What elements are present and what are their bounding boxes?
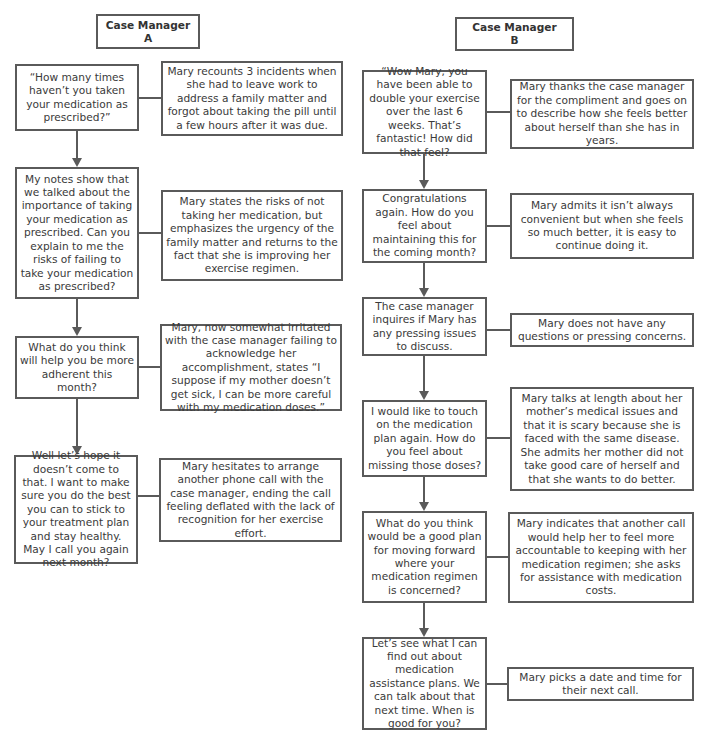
manager-a-step-4: Well let’s hope it doesn’t come to that.… xyxy=(14,455,138,564)
mary-response: Mary thanks the case manager for the com… xyxy=(515,80,689,147)
mary-response: Mary admits it isn’t always convenient b… xyxy=(515,199,689,253)
connector-line xyxy=(423,263,425,289)
mary-response: Mary does not have any questions or pres… xyxy=(515,317,689,344)
connector-line xyxy=(423,477,425,503)
header-label: B xyxy=(510,34,518,47)
mary-a-response-3: Mary, now somewhat irritated with the ca… xyxy=(160,324,342,411)
mary-b-response-3: Mary does not have any questions or pres… xyxy=(510,313,694,347)
header-title: Case Manager xyxy=(106,19,190,32)
mary-response: Mary hesitates to arrange another phone … xyxy=(164,460,337,540)
manager-b-step-4: I would like to touch on the medication … xyxy=(362,400,487,477)
manager-statement: What do you think will help you be more … xyxy=(20,341,134,395)
manager-a-step-2: My notes show that we talked about the i… xyxy=(15,167,139,299)
mary-response: Mary talks at length about her mother’s … xyxy=(515,392,689,486)
mary-a-response-2: Mary states the risks of not taking her … xyxy=(161,190,343,281)
manager-statement: Well let’s hope it doesn’t come to that.… xyxy=(19,449,133,570)
manager-b-step-3: The case manager inquires if Mary has an… xyxy=(362,297,487,356)
connector-line xyxy=(138,495,160,497)
manager-b-step-1: “Wow Mary, you have been able to double … xyxy=(362,70,487,154)
mary-response: Mary states the risks of not taking her … xyxy=(166,195,338,275)
connector-line xyxy=(487,329,510,331)
manager-statement: I would like to touch on the medication … xyxy=(367,405,482,472)
connector-line xyxy=(487,556,508,558)
mary-b-response-6: Mary picks a date and time for their nex… xyxy=(507,667,694,701)
arrow-down-icon xyxy=(72,327,82,336)
arrow-down-icon xyxy=(419,180,429,189)
connector-line xyxy=(487,225,510,227)
connector-line xyxy=(139,366,161,368)
mary-b-response-1: Mary thanks the case manager for the com… xyxy=(510,79,694,149)
header-title: Case Manager xyxy=(472,21,556,34)
arrow-down-icon xyxy=(419,502,429,511)
manager-b-step-6: Let’s see what I can find out about medi… xyxy=(362,637,487,730)
manager-b-step-5: What do you think would be a good plan f… xyxy=(362,511,487,603)
manager-a-step-3: What do you think will help you be more … xyxy=(15,336,139,399)
case-manager-b-header: Case Manager B xyxy=(455,17,574,51)
arrow-down-icon xyxy=(72,158,82,167)
mary-b-response-5: Mary indicates that another call would h… xyxy=(508,512,694,603)
manager-statement: My notes show that we talked about the i… xyxy=(20,173,134,294)
mary-b-response-2: Mary admits it isn’t always convenient b… xyxy=(510,193,694,259)
manager-statement: “Wow Mary, you have been able to double … xyxy=(367,65,482,159)
connector-line xyxy=(423,603,425,629)
connector-line xyxy=(139,232,161,234)
connector-line xyxy=(76,131,78,159)
manager-statement: “How many times haven’t you taken your m… xyxy=(20,71,134,125)
connector-line xyxy=(487,683,507,685)
manager-statement: What do you think would be a good plan f… xyxy=(367,517,482,597)
arrow-down-icon xyxy=(419,288,429,297)
mary-b-response-4: Mary talks at length about her mother’s … xyxy=(510,387,694,491)
mary-a-response-1: Mary recounts 3 incidents when she had t… xyxy=(161,61,343,136)
connector-line xyxy=(139,97,161,99)
manager-a-step-1: “How many times haven’t you taken your m… xyxy=(15,64,139,131)
connector-line xyxy=(487,111,510,113)
connector-line xyxy=(76,299,78,327)
connector-line xyxy=(423,154,425,181)
manager-b-step-2: Congratulations again. How do you feel a… xyxy=(362,189,487,263)
connector-line xyxy=(487,437,510,439)
case-manager-a-header: Case Manager A xyxy=(96,14,200,49)
mary-response: Mary, now somewhat irritated with the ca… xyxy=(165,321,337,415)
header-label: A xyxy=(144,32,152,45)
mary-a-response-4: Mary hesitates to arrange another phone … xyxy=(159,458,342,542)
mary-response: Mary indicates that another call would h… xyxy=(513,517,689,597)
connector-line xyxy=(76,399,78,447)
connector-line xyxy=(423,356,425,392)
mary-response: Mary picks a date and time for their nex… xyxy=(512,671,689,698)
mary-response: Mary recounts 3 incidents when she had t… xyxy=(166,65,338,132)
arrow-down-icon xyxy=(419,391,429,400)
manager-statement: Congratulations again. How do you feel a… xyxy=(367,192,482,259)
manager-statement: Let’s see what I can find out about medi… xyxy=(367,637,482,731)
manager-statement: The case manager inquires if Mary has an… xyxy=(367,300,482,354)
